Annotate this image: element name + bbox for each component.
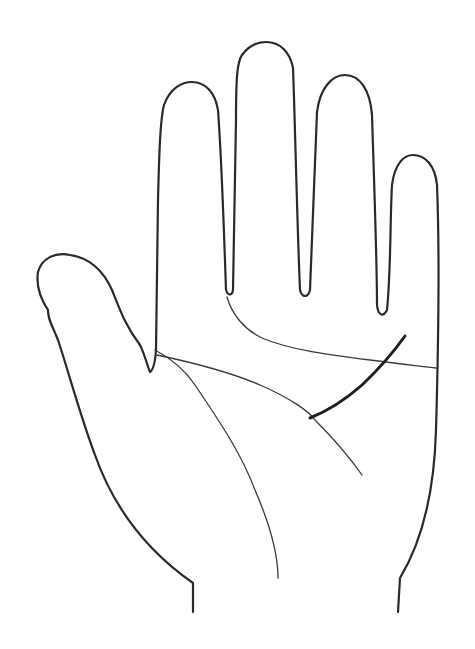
highlighted-line	[310, 336, 405, 418]
hand-outline	[37, 42, 438, 612]
heart-line	[227, 297, 436, 368]
head-line	[157, 355, 362, 475]
hand-diagram	[0, 0, 475, 649]
